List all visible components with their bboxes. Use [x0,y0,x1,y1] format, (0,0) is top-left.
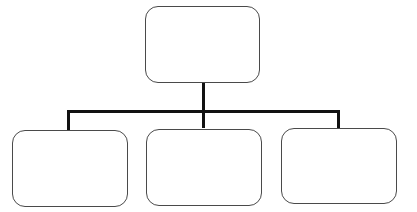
trunk-connector [202,83,205,128]
right-drop-connector [337,110,340,129]
horizontal-connector [67,110,340,113]
child-node-2 [146,129,262,206]
left-drop-connector [67,110,70,131]
root-node [145,6,260,83]
child-node-3 [281,128,397,204]
child-node-1 [12,130,128,207]
